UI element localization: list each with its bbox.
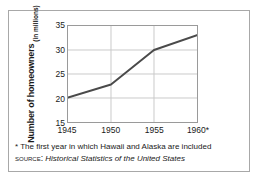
data-line-series — [68, 35, 197, 97]
y-tick-label: 30 — [56, 45, 65, 54]
y-tick-label: 35 — [56, 21, 65, 30]
chart-area: Number of homeowners (in millions) 35302… — [9, 11, 251, 137]
y-tick-label: 20 — [56, 94, 65, 103]
source-title: Historical Statistics of the United Stat… — [45, 154, 185, 163]
y-tick-label: 25 — [56, 70, 65, 79]
source-line: Source: Historical Statistics of the Uni… — [15, 153, 247, 164]
footnote-text: * The first year in which Hawaii and Ala… — [15, 141, 247, 152]
x-axis-tick-labels: 1945195019551960* — [67, 126, 198, 138]
figure-panel: Number of homeowners (in millions) 35302… — [8, 10, 250, 172]
x-tick-label: 1945 — [58, 126, 77, 135]
x-tick-label: 1955 — [145, 126, 164, 135]
y-axis-title-main: Number of homeowners — [27, 44, 36, 143]
y-axis-title-sub: (in millions) — [33, 5, 40, 41]
y-axis-tick-labels: 3530252015 — [47, 25, 65, 123]
x-tick-label: 1960* — [187, 126, 209, 135]
x-tick-label: 1950 — [101, 126, 120, 135]
notes-block: * The first year in which Hawaii and Ala… — [15, 141, 247, 164]
line-chart-svg — [68, 26, 197, 122]
source-label: Source: — [15, 153, 43, 163]
y-axis-title: Number of homeowners (in millions) — [18, 26, 44, 122]
plot-area — [67, 25, 198, 123]
